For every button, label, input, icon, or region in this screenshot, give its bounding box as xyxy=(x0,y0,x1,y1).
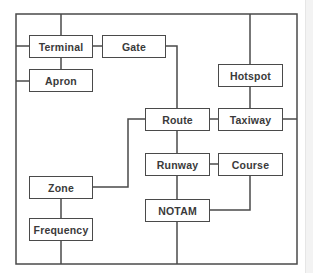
node-label: Hotspot xyxy=(230,70,271,82)
node-label: Route xyxy=(162,114,193,126)
node-label: Course xyxy=(232,159,269,171)
diagram-canvas: Terminal Gate Apron Hotspot Route Taxiwa… xyxy=(0,0,313,273)
node-label: NOTAM xyxy=(158,205,197,217)
node-course[interactable]: Course xyxy=(218,153,283,176)
node-label: Taxiway xyxy=(230,114,271,126)
node-label: Terminal xyxy=(39,41,84,53)
node-zone[interactable]: Zone xyxy=(29,176,93,199)
node-label: Zone xyxy=(48,182,74,194)
node-gate[interactable]: Gate xyxy=(102,35,166,58)
node-runway[interactable]: Runway xyxy=(145,153,210,176)
node-apron[interactable]: Apron xyxy=(29,69,93,92)
node-label: Runway xyxy=(157,159,198,171)
node-notam[interactable]: NOTAM xyxy=(145,199,210,222)
node-label: Gate xyxy=(122,41,146,53)
side-panel-edge xyxy=(305,0,313,273)
node-label: Frequency xyxy=(34,224,89,236)
node-hotspot[interactable]: Hotspot xyxy=(218,64,283,87)
node-frequency[interactable]: Frequency xyxy=(29,218,93,241)
node-label: Apron xyxy=(45,75,77,87)
node-route[interactable]: Route xyxy=(145,108,210,131)
node-terminal[interactable]: Terminal xyxy=(29,35,93,58)
node-taxiway[interactable]: Taxiway xyxy=(218,108,283,131)
